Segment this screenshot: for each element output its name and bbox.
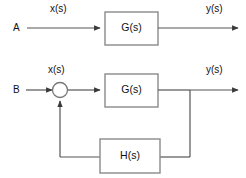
closed-loop-forward-block-label: G(s) [105, 83, 158, 95]
summing-junction[interactable] [53, 83, 68, 98]
diagram-canvas: A x(s) y(s) G(s) B x(s) y(s) G(s) H(s) [0, 0, 246, 178]
open-loop-input-label: x(s) [50, 3, 67, 14]
open-loop-node-label: A [13, 22, 20, 33]
closed-loop-node-label: B [13, 84, 20, 95]
closed-loop-input-label: x(s) [48, 64, 65, 75]
closed-loop-output-label: y(s) [206, 64, 223, 75]
open-loop-forward-block-label: G(s) [105, 21, 158, 33]
open-loop-output-label: y(s) [206, 3, 223, 14]
feedback-block-label: H(s) [100, 149, 160, 161]
